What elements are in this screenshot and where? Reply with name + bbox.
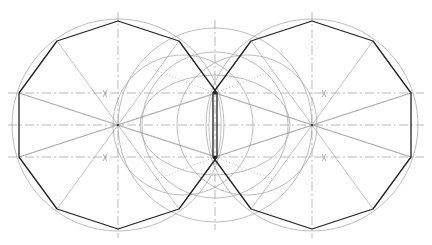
decagon-construction-diagram <box>0 0 432 245</box>
axis-lines <box>8 12 424 238</box>
